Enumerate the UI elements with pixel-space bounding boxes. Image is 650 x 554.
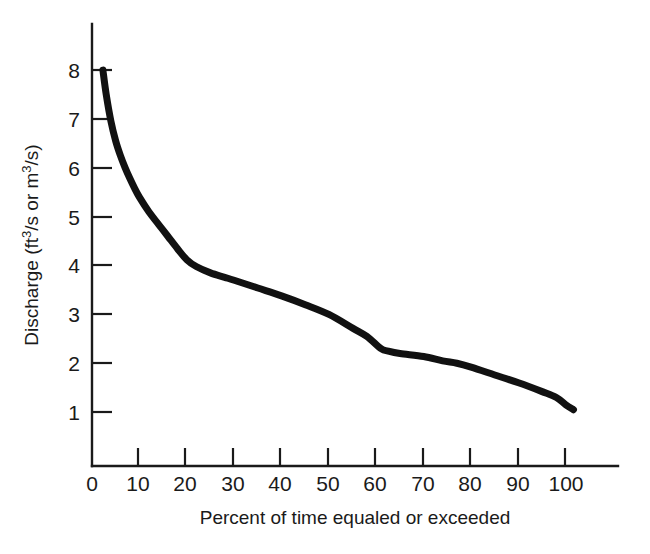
y-axis-title-part2: /s or m: [21, 173, 42, 231]
x-tick-label-60: 60: [363, 472, 386, 495]
y-tick-label-6: 6: [68, 157, 80, 180]
y-tick-label-5: 5: [68, 206, 80, 229]
x-tick-label-50: 50: [316, 472, 339, 495]
y-tick-label-3: 3: [68, 303, 80, 326]
y-tick-label-2: 2: [68, 352, 80, 375]
y-axis-title-sup2: 3: [19, 165, 34, 172]
y-axis-title: Discharge (ft3/s or m3/s): [19, 144, 43, 345]
y-axis-title-part3: /s): [21, 144, 42, 165]
flow-duration-chart-figure: 8 7 6 5 4 3 2 1 0 10 20 30: [0, 0, 650, 554]
y-tick-label-4: 4: [68, 254, 80, 277]
chart-background: [0, 0, 650, 554]
y-tick-label-1: 1: [68, 401, 80, 424]
x-tick-label-70: 70: [411, 472, 434, 495]
x-tick-label-40: 40: [268, 472, 291, 495]
x-tick-label-0: 0: [86, 472, 98, 495]
x-tick-label-80: 80: [458, 472, 481, 495]
y-axis-title-sup1: 3: [19, 231, 34, 238]
x-tick-label-90: 90: [506, 472, 529, 495]
x-tick-label-100: 100: [548, 472, 583, 495]
x-tick-label-30: 30: [221, 472, 244, 495]
x-tick-label-10: 10: [126, 472, 149, 495]
x-axis-title: Percent of time equaled or exceeded: [200, 507, 511, 528]
x-tick-label-20: 20: [173, 472, 196, 495]
y-axis-title-part1: Discharge (ft: [21, 237, 42, 345]
chart-canvas: 8 7 6 5 4 3 2 1 0 10 20 30: [0, 0, 650, 554]
y-tick-label-7: 7: [68, 108, 80, 131]
y-tick-label-8: 8: [68, 59, 80, 82]
